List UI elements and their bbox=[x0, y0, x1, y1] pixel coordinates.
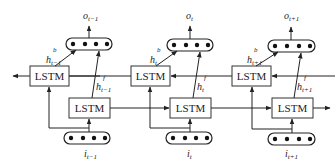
output-label: ot−1 bbox=[83, 10, 98, 23]
lstm-label: LSTM bbox=[176, 102, 206, 114]
backward-hidden-label: ht−1 bbox=[46, 54, 61, 67]
backward-sup: b bbox=[254, 46, 258, 54]
input-label: it−1 bbox=[84, 148, 97, 161]
backward-sup: b bbox=[53, 46, 57, 54]
forward-hidden-label: ht−1 bbox=[96, 81, 111, 94]
forward-sup: f bbox=[204, 74, 207, 82]
lstm-label: LSTM bbox=[237, 70, 267, 82]
lstm-label: LSTM bbox=[75, 102, 105, 114]
backward-hidden-label: ht+1 bbox=[247, 54, 262, 67]
output-label: ot bbox=[186, 10, 194, 23]
backward-sup: b bbox=[157, 46, 161, 54]
bilstm-diagram: LSTM LSTM ot−1 it−1 ht−1 b ht−1 f LSTM L… bbox=[0, 0, 335, 165]
lstm-label: LSTM bbox=[35, 70, 65, 82]
forward-hidden-label: ht bbox=[197, 81, 205, 94]
column-t: LSTM LSTM ot it ht b ht f bbox=[131, 10, 213, 161]
input-label: it+1 bbox=[285, 148, 298, 161]
column-t-minus-1: LSTM LSTM ot−1 it−1 ht−1 b ht−1 f bbox=[30, 10, 112, 161]
output-label: ot+1 bbox=[284, 10, 299, 23]
input-label: it bbox=[187, 148, 193, 161]
diagram-canvas: LSTM LSTM ot−1 it−1 ht−1 b ht−1 f LSTM L… bbox=[0, 0, 335, 165]
column-t-plus-1: LSTM LSTM ot+1 it+1 ht+1 b ht+1 f bbox=[232, 10, 315, 161]
forward-sup: f bbox=[103, 74, 106, 82]
lstm-label: LSTM bbox=[278, 102, 308, 114]
lstm-label: LSTM bbox=[136, 70, 166, 82]
forward-sup: f bbox=[304, 74, 307, 82]
backward-hidden-label: ht bbox=[150, 54, 158, 67]
forward-hidden-label: ht+1 bbox=[297, 81, 312, 94]
